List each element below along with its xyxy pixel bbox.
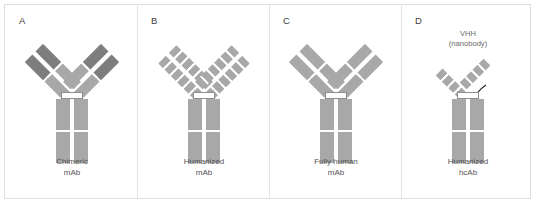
panel-a: A Chimeric mAb (5, 5, 139, 198)
panel-letter: B (151, 15, 158, 26)
panel-c: C Fully human mAb (269, 5, 403, 198)
panel-letter: C (283, 15, 290, 26)
ch2-ch3-split (188, 130, 202, 132)
fc-bar-right (470, 99, 484, 163)
fc-bar-right (338, 99, 352, 163)
fc-stem (188, 99, 220, 163)
panel-caption: Chimeric mAb (5, 157, 139, 178)
panel-caption: Humanized hcAb (401, 157, 535, 178)
antibody-formats-figure: A Chimeric mAb B (0, 0, 536, 204)
hinge-region (325, 92, 347, 99)
fc-bar-right (206, 99, 220, 163)
panel-b: B Humanized mAb (137, 5, 271, 198)
fc-bar-right (74, 99, 88, 163)
panel-letter: D (415, 15, 422, 26)
fc-bar-left (188, 99, 202, 163)
hinge-region (457, 92, 479, 99)
fc-stem (452, 99, 484, 163)
panel-caption: Humanized mAb (137, 157, 271, 178)
ch2-ch3-split (452, 130, 466, 132)
fc-bar-left (56, 99, 70, 163)
vhh-annotation: VHH (nanobody) (401, 29, 535, 49)
hinge-region (61, 92, 83, 99)
ch2-ch3-split (74, 130, 88, 132)
fc-bar-left (320, 99, 334, 163)
fc-stem (320, 99, 352, 163)
fc-bar-left (452, 99, 466, 163)
ch2-ch3-split (56, 130, 70, 132)
panel-caption: Fully human mAb (269, 157, 403, 178)
ch2-ch3-split (470, 130, 484, 132)
ch2-ch3-split (320, 130, 334, 132)
fc-stem (56, 99, 88, 163)
panel-d: D VHH (nanobody) Humanized hcAb (401, 5, 535, 198)
ch2-ch3-split (338, 130, 352, 132)
panel-letter: A (19, 15, 26, 26)
ch2-ch3-split (206, 130, 220, 132)
hinge-region (193, 92, 215, 99)
